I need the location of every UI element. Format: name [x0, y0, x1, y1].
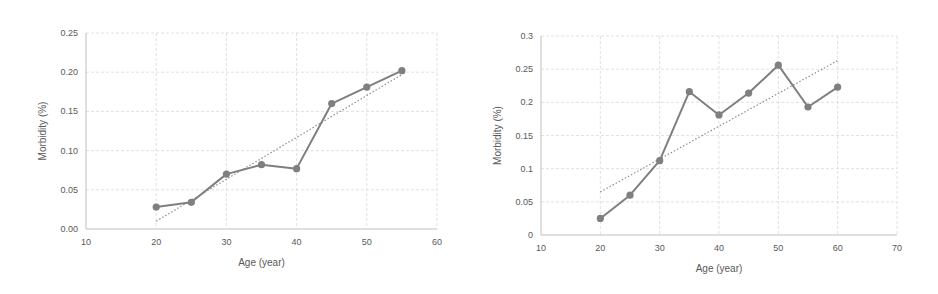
y-tick-label: 0.3 — [520, 31, 533, 41]
x-tick-label: 30 — [655, 243, 665, 253]
y-tick-label: 0.25 — [515, 64, 533, 74]
x-tick-label: 30 — [221, 237, 231, 247]
x-tick-label: 40 — [292, 237, 302, 247]
y-tick-label: 0.2 — [520, 97, 533, 107]
data-point-marker — [715, 111, 722, 118]
y-tick-label: 0.15 — [60, 106, 78, 116]
data-point-marker — [804, 103, 811, 110]
data-point-marker — [153, 203, 160, 210]
right-chart-plot: 00.050.10.150.20.250.310203040506070Age … — [469, 0, 938, 294]
x-tick-label: 10 — [536, 243, 546, 253]
x-axis-title: Age (year) — [696, 263, 743, 274]
x-axis-title: Age (year) — [238, 257, 285, 268]
y-tick-label: 0.05 — [60, 185, 78, 195]
x-tick-label: 60 — [432, 237, 442, 247]
x-tick-label: 40 — [714, 243, 724, 253]
y-tick-label: 0.10 — [60, 146, 78, 156]
x-tick-label: 20 — [595, 243, 605, 253]
data-point-marker — [834, 83, 841, 90]
y-tick-label: 0 — [528, 230, 533, 240]
x-tick-label: 70 — [892, 243, 902, 253]
right-chart: 00.050.10.150.20.250.310203040506070Age … — [469, 0, 938, 294]
y-tick-label: 0.05 — [515, 197, 533, 207]
x-tick-label: 60 — [833, 243, 843, 253]
data-point-marker — [398, 67, 405, 74]
data-point-marker — [656, 157, 663, 164]
data-point-marker — [686, 88, 693, 95]
data-point-marker — [328, 100, 335, 107]
trendline — [156, 75, 402, 222]
x-tick-label: 50 — [773, 243, 783, 253]
data-series-line — [156, 71, 402, 207]
data-point-marker — [775, 62, 782, 69]
y-tick-label: 0.00 — [60, 224, 78, 234]
data-point-marker — [293, 165, 300, 172]
x-tick-label: 50 — [362, 237, 372, 247]
data-point-marker — [745, 89, 752, 96]
y-axis-title: Morbidity (%) — [492, 106, 503, 165]
data-point-marker — [223, 171, 230, 178]
y-tick-label: 0.20 — [60, 67, 78, 77]
data-point-marker — [258, 161, 265, 168]
y-axis-title: Morbidity (%) — [37, 102, 48, 161]
y-tick-label: 0.1 — [520, 164, 533, 174]
data-point-marker — [363, 83, 370, 90]
x-tick-label: 20 — [151, 237, 161, 247]
y-tick-label: 0.15 — [515, 131, 533, 141]
data-point-marker — [597, 215, 604, 222]
left-chart-plot: 0.000.050.100.150.200.25102030405060Age … — [0, 0, 469, 294]
x-tick-label: 10 — [81, 237, 91, 247]
data-point-marker — [188, 199, 195, 206]
y-tick-label: 0.25 — [60, 28, 78, 38]
left-chart: 0.000.050.100.150.200.25102030405060Age … — [0, 0, 469, 294]
data-point-marker — [626, 192, 633, 199]
